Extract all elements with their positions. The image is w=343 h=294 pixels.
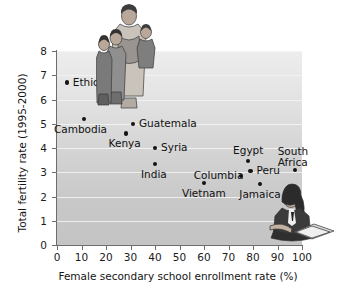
data-point-label: India	[141, 169, 167, 180]
x-tick-label-0: 0	[45, 252, 69, 263]
x-tick-80	[253, 246, 254, 250]
x-tick-20	[106, 246, 107, 250]
y-tick-label-7: 7	[33, 70, 47, 81]
y-tick-1	[52, 221, 56, 222]
x-tick-30	[131, 246, 132, 250]
y-tick-3	[52, 172, 56, 173]
y-tick-0	[52, 245, 56, 246]
y-tick-7	[52, 75, 56, 76]
data-point-label: Peru	[257, 165, 280, 176]
data-point-label: Cambodia	[54, 124, 107, 135]
gridline-y-8	[57, 51, 302, 52]
data-point	[82, 117, 86, 121]
data-point-label: South Africa	[278, 146, 309, 167]
y-tick-label-4: 4	[33, 143, 47, 154]
scatter-chart-figure: 012345678 0102030405060708090100 Ethiopi…	[0, 0, 343, 294]
x-tick-label-40: 40	[143, 252, 167, 263]
x-tick-label-90: 90	[266, 252, 290, 263]
x-tick-label-30: 30	[119, 252, 143, 263]
y-tick-6	[52, 100, 56, 101]
x-axis-title: Female secondary school enrollment rate …	[28, 270, 328, 282]
data-point	[65, 80, 69, 84]
data-point	[293, 168, 297, 172]
y-axis-title: Total fertility rate (1995-2000)	[16, 53, 28, 253]
y-tick-label-8: 8	[33, 46, 47, 57]
y-tick-label-6: 6	[33, 95, 47, 106]
x-tick-label-60: 60	[192, 252, 216, 263]
data-point-label: Vietnam	[182, 188, 226, 199]
x-tick-10	[82, 246, 83, 250]
y-tick-2	[52, 197, 56, 198]
data-point	[153, 162, 157, 166]
data-point	[131, 122, 135, 126]
data-point	[248, 169, 252, 173]
y-axis-line	[56, 50, 57, 246]
x-tick-label-70: 70	[217, 252, 241, 263]
data-point-label: Guatemala	[139, 118, 197, 129]
y-tick-4	[52, 148, 56, 149]
data-point	[124, 131, 128, 135]
x-tick-60	[204, 246, 205, 250]
x-tick-label-50: 50	[168, 252, 192, 263]
y-tick-label-3: 3	[33, 167, 47, 178]
x-tick-label-20: 20	[94, 252, 118, 263]
x-tick-40	[155, 246, 156, 250]
x-tick-70	[229, 246, 230, 250]
data-point-label: Egypt	[233, 145, 263, 156]
x-tick-50	[180, 246, 181, 250]
seated-student-reading-book-illustration	[258, 182, 338, 248]
x-tick-label-10: 10	[70, 252, 94, 263]
data-point-label: Columbia	[194, 170, 244, 181]
y-tick-label-1: 1	[33, 216, 47, 227]
x-tick-0	[57, 246, 58, 250]
gridline-y-6	[57, 100, 302, 101]
y-tick-label-5: 5	[33, 119, 47, 130]
x-tick-label-100: 100	[290, 252, 314, 263]
mother-with-children-illustration	[96, 2, 162, 110]
y-tick-label-2: 2	[33, 192, 47, 203]
data-point-label: Kenya	[109, 138, 141, 149]
y-tick-8	[52, 51, 56, 52]
data-point-label: Syria	[161, 142, 188, 153]
x-tick-label-80: 80	[241, 252, 265, 263]
y-tick-label-0: 0	[33, 240, 47, 251]
